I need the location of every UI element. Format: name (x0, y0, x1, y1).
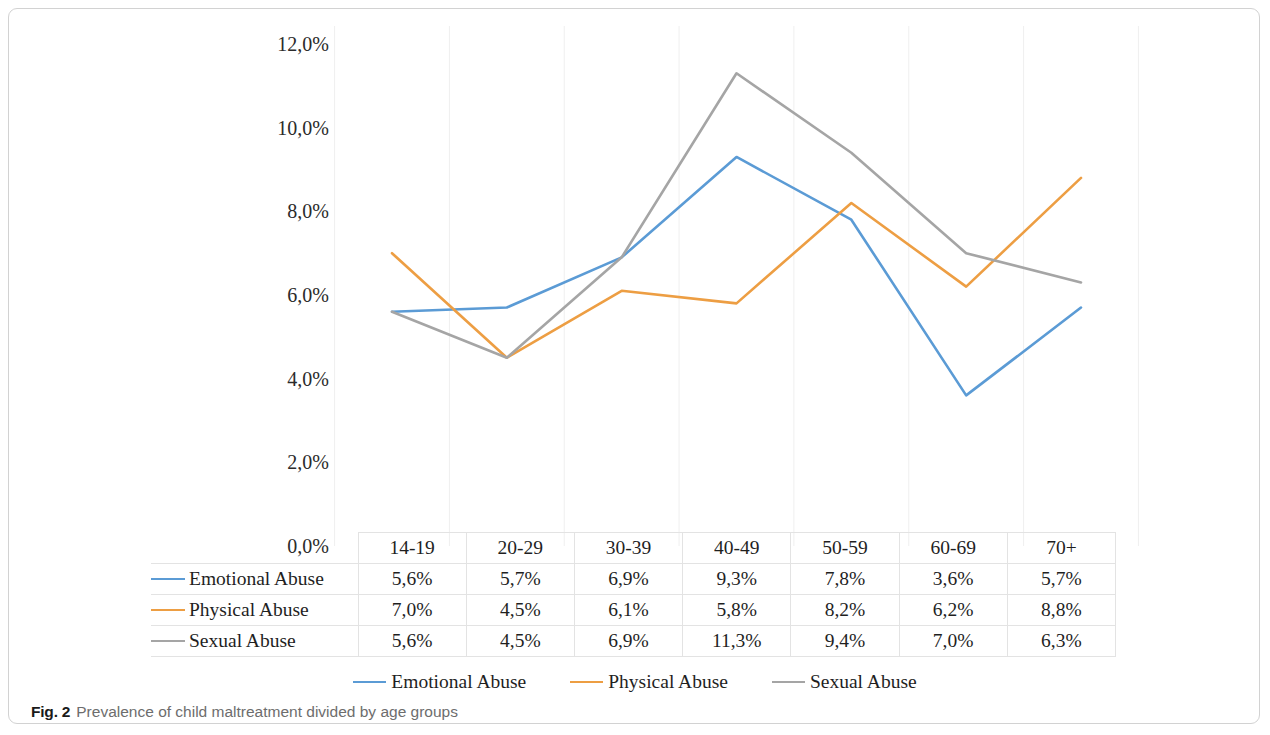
table-data-cell: 9,3% (683, 564, 791, 595)
table-data-cell: 5,6% (358, 564, 466, 595)
chart-series-lines (392, 73, 1081, 395)
figure-card: 0,0%2,0%4,0%6,0%8,0%10,0%12,0% 14-1920-2… (8, 8, 1260, 724)
table-data-cell: 11,3% (683, 626, 791, 657)
table-data-cell: 5,6% (358, 626, 466, 657)
table-data-cell: 5,7% (1007, 564, 1115, 595)
table-data-cell: 6,9% (574, 564, 682, 595)
legend-item[interactable]: Emotional Abuse (353, 671, 526, 693)
series-color-swatch-icon (151, 578, 185, 581)
legend-item[interactable]: Sexual Abuse (772, 671, 917, 693)
table-data-cell: 7,8% (791, 564, 899, 595)
table-data-cell: 7,0% (358, 595, 466, 626)
table-series-key: Emotional Abuse (151, 564, 358, 595)
y-axis-tick-label: 2,0% (219, 452, 329, 472)
y-axis-tick-label: 4,0% (219, 369, 329, 389)
table-corner-cell (151, 533, 358, 564)
series-color-swatch-icon (151, 640, 185, 643)
y-axis-tick-label: 8,0% (219, 201, 329, 221)
table-data-cell: 8,2% (791, 595, 899, 626)
table-column-header: 40-49 (683, 533, 791, 564)
figure-caption: Fig. 2Prevalence of child maltreatment d… (31, 704, 458, 720)
y-axis-tick-label: 12,0% (219, 34, 329, 54)
table-column-header: 70+ (1007, 533, 1115, 564)
table-row: Emotional Abuse5,6%5,7%6,9%9,3%7,8%3,6%5… (151, 564, 1116, 595)
table-data-cell: 5,7% (466, 564, 574, 595)
table-data-cell: 6,9% (574, 626, 682, 657)
series-line-sexual-abuse (392, 73, 1081, 357)
figure-caption-label: Fig. 2 (31, 703, 70, 720)
y-axis-tick-label: 6,0% (219, 285, 329, 305)
table-header-row: 14-1920-2930-3940-4950-5960-6970+ (151, 533, 1116, 564)
y-axis-tick-label: 10,0% (219, 118, 329, 138)
chart-legend: Emotional AbusePhysical AbuseSexual Abus… (9, 671, 1261, 693)
table-column-header: 60-69 (899, 533, 1007, 564)
legend-label: Physical Abuse (608, 671, 728, 693)
table-body: Emotional Abuse5,6%5,7%6,9%9,3%7,8%3,6%5… (151, 564, 1116, 657)
series-name-label: Emotional Abuse (189, 568, 324, 590)
legend-color-swatch-icon (772, 681, 805, 684)
table-data-cell: 6,3% (1007, 626, 1115, 657)
series-line-physical-abuse (392, 178, 1081, 358)
table-data-cell: 6,1% (574, 595, 682, 626)
figure-caption-text: Prevalence of child maltreatment divided… (76, 703, 458, 720)
table-column-header: 50-59 (791, 533, 899, 564)
table-data-cell: 6,2% (899, 595, 1007, 626)
legend-color-swatch-icon (570, 681, 603, 684)
legend-color-swatch-icon (353, 681, 386, 684)
legend-label: Emotional Abuse (391, 671, 526, 693)
table-data-cell: 4,5% (466, 626, 574, 657)
table-data-cell: 9,4% (791, 626, 899, 657)
series-name-label: Sexual Abuse (189, 630, 296, 652)
series-name-label: Physical Abuse (189, 599, 309, 621)
table-series-key: Sexual Abuse (151, 626, 358, 657)
table-column-header: 20-29 (466, 533, 574, 564)
table-column-header: 30-39 (574, 533, 682, 564)
series-color-swatch-icon (151, 609, 185, 612)
chart-gridlines (335, 26, 1139, 546)
table-data-cell: 3,6% (899, 564, 1007, 595)
legend-item[interactable]: Physical Abuse (570, 671, 728, 693)
legend-label: Sexual Abuse (810, 671, 917, 693)
table-column-header: 14-19 (358, 533, 466, 564)
table-row: Physical Abuse7,0%4,5%6,1%5,8%8,2%6,2%8,… (151, 595, 1116, 626)
table-data-cell: 7,0% (899, 626, 1007, 657)
table-data-cell: 4,5% (466, 595, 574, 626)
table-data-cell: 8,8% (1007, 595, 1115, 626)
table-series-key: Physical Abuse (151, 595, 358, 626)
chart-data-table: 14-1920-2930-3940-4950-5960-6970+ Emotio… (151, 532, 1116, 657)
table-row: Sexual Abuse5,6%4,5%6,9%11,3%9,4%7,0%6,3… (151, 626, 1116, 657)
table-data-cell: 5,8% (683, 595, 791, 626)
